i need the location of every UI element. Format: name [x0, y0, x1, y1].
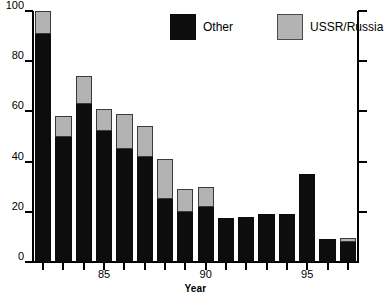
bar-segment-ussr-russia — [137, 126, 153, 156]
bar-segment-other — [299, 174, 315, 262]
bar-83 — [55, 11, 71, 262]
x-axis-tick-label: 85 — [98, 268, 110, 280]
plot-area — [33, 11, 358, 262]
bar-82 — [35, 11, 51, 262]
bar-segment-other — [340, 242, 356, 262]
y-axis-tick-label: 20 — [0, 201, 24, 212]
bar-segment-other — [177, 212, 193, 262]
y-axis-tick — [25, 10, 33, 12]
gray-square-icon — [277, 14, 303, 40]
y-axis-tick — [25, 211, 33, 213]
y-axis-tick-right — [358, 211, 367, 213]
bar-segment-other — [198, 207, 214, 262]
bar-88 — [157, 11, 173, 262]
bar-segment-ussr-russia — [198, 187, 214, 207]
y-axis-tick — [25, 261, 33, 263]
x-axis-tick — [184, 263, 186, 270]
y-axis-tick — [25, 60, 33, 62]
bar-segment-other — [137, 157, 153, 262]
bar-93 — [258, 11, 274, 262]
x-axis-tick — [164, 263, 166, 270]
bar-84 — [76, 11, 92, 262]
bar-86 — [116, 11, 132, 262]
bar-segment-ussr-russia — [157, 159, 173, 199]
x-axis-tick — [62, 263, 64, 270]
bar-segment-ussr-russia — [340, 238, 356, 242]
black-square-icon — [170, 14, 196, 40]
x-axis-tick — [327, 263, 329, 270]
y-axis-tick-label: 60 — [0, 100, 24, 111]
x-axis-tick — [266, 263, 268, 270]
bar-85 — [96, 11, 112, 262]
y-axis-tick-label: 100 — [0, 0, 24, 11]
x-axis-tick — [42, 263, 44, 270]
x-axis-title: Year — [0, 283, 391, 294]
bar-segment-ussr-russia — [177, 189, 193, 212]
bar-87 — [137, 11, 153, 262]
chart-legend: Other USSR/Russia — [170, 14, 383, 40]
y-axis-tick-right — [358, 10, 367, 12]
bar-segment-ussr-russia — [96, 109, 112, 132]
y-axis-tick-label: 40 — [0, 151, 24, 162]
x-axis-tick — [225, 263, 227, 270]
x-axis-tick — [347, 263, 349, 270]
bar-segment-other — [238, 217, 254, 262]
bar-92 — [238, 11, 254, 262]
y-axis-tick — [25, 161, 33, 163]
y-axis-tick-right — [358, 161, 367, 163]
bar-segment-other — [157, 199, 173, 262]
y-axis-tick — [25, 110, 33, 112]
legend-label-ussr-russia: USSR/Russia — [310, 21, 383, 34]
bar-segment-ussr-russia — [35, 11, 51, 34]
bar-94 — [279, 11, 295, 262]
bar-96 — [319, 11, 335, 262]
bar-segment-other — [258, 214, 274, 262]
y-axis-tick-right — [358, 110, 367, 112]
bar-segment-other — [116, 149, 132, 262]
x-axis-tick — [144, 263, 146, 270]
bar-segment-other — [76, 104, 92, 262]
bar-90 — [198, 11, 214, 262]
bar-segment-other — [319, 239, 335, 262]
x-axis-tick — [83, 263, 85, 270]
bar-89 — [177, 11, 193, 262]
bar-91 — [218, 11, 234, 262]
bar-segment-other — [96, 131, 112, 262]
bar-segment-other — [35, 34, 51, 262]
y-axis-tick-right — [358, 60, 367, 62]
x-axis-tick — [286, 263, 288, 270]
y-axis-tick-label: 0 — [0, 251, 24, 262]
legend-item-other: Other — [170, 14, 233, 40]
bar-segment-ussr-russia — [55, 116, 71, 136]
legend-item-ussr-russia: USSR/Russia — [277, 14, 383, 40]
x-axis-tick — [123, 263, 125, 270]
bar-97 — [340, 11, 356, 262]
x-axis-tick — [245, 263, 247, 270]
x-axis-tick-label: 95 — [301, 268, 313, 280]
legend-label-other: Other — [203, 21, 233, 34]
stacked-bar-chart: 020406080100 859095 Year Other USSR/Russ… — [0, 0, 391, 298]
y-axis-tick-label: 80 — [0, 50, 24, 61]
bar-segment-ussr-russia — [76, 76, 92, 104]
bar-segment-ussr-russia — [116, 114, 132, 149]
bar-95 — [299, 11, 315, 262]
x-axis-tick-label: 90 — [200, 268, 212, 280]
bar-segment-other — [55, 137, 71, 263]
bar-segment-other — [218, 218, 234, 262]
bar-segment-other — [279, 214, 295, 262]
